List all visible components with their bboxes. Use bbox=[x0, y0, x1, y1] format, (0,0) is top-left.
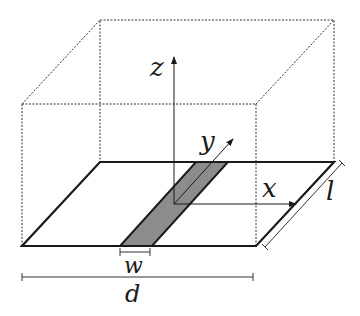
y-axis-label: y bbox=[199, 126, 215, 156]
z-axis-label: z bbox=[149, 52, 164, 82]
box-back-face bbox=[100, 20, 334, 162]
w-dimension-label: w bbox=[124, 253, 143, 278]
box-left-top-diagonal bbox=[22, 20, 100, 104]
x-axis-label: x bbox=[262, 173, 277, 203]
microstrip-diagram: z y x l w d bbox=[0, 0, 360, 316]
box-right-top-diagonal bbox=[256, 20, 334, 104]
l-dimension-label: l bbox=[326, 176, 334, 206]
d-dimension-label: d bbox=[125, 280, 140, 308]
